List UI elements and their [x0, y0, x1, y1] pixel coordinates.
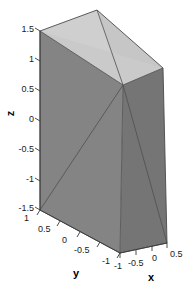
- y-tick-label-2: 0.5: [38, 225, 51, 234]
- figure-canvas: 1.5 1 0.5 0 -0.5 -1 -1.5 1 0.5 0 -0.5 -1…: [0, 0, 194, 289]
- x-tick-label-2: -0.5: [128, 259, 144, 268]
- z-tick-label-2: 1: [18, 55, 34, 64]
- z-tick-label-6: -1: [15, 175, 34, 184]
- z-tick-label-4: 0: [18, 115, 34, 124]
- x-tick-label-1: -1: [114, 262, 122, 271]
- z-tick-label-7: -1.5: [15, 204, 34, 213]
- z-tick: [35, 28, 40, 31]
- right-face-group: [120, 68, 167, 253]
- x-tick-label-3: 0: [152, 254, 157, 263]
- z-tick: [35, 58, 40, 61]
- z-axis-label: z: [5, 108, 16, 120]
- y-tick: [97, 242, 100, 247]
- y-tick-label-4: -0.5: [74, 246, 90, 255]
- z-tick: [35, 148, 40, 151]
- z-tick: [35, 178, 40, 181]
- x-tick-label-4: 0.5: [170, 250, 183, 259]
- y-axis-label: y: [73, 268, 79, 279]
- z-tick-label-1: 1.5: [18, 25, 34, 34]
- z-tick-label-5: -0.5: [15, 145, 34, 154]
- x-axis-label: x: [148, 272, 154, 283]
- y-tick-label-3: 0: [62, 236, 67, 245]
- z-axis-ticks-group: [35, 28, 40, 210]
- z-tick: [35, 88, 40, 91]
- right-face: [120, 68, 167, 253]
- z-tick-label-3: 0.5: [18, 85, 34, 94]
- z-tick: [35, 118, 40, 121]
- y-tick-label-1: 1: [24, 214, 29, 223]
- y-tick-label-5: -1: [102, 257, 110, 266]
- z-tick: [35, 207, 40, 210]
- y-tick: [37, 210, 40, 215]
- y-tick: [77, 232, 80, 237]
- y-tick: [57, 221, 60, 226]
